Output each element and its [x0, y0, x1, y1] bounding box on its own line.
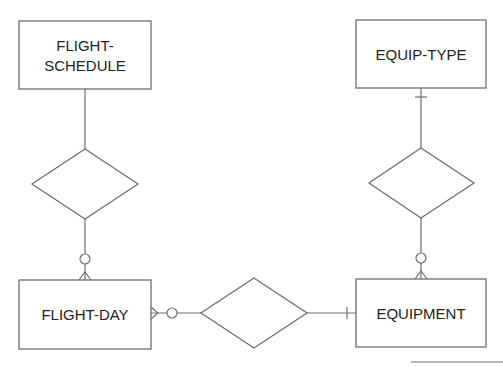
entity-label: EQUIP-TYPE	[376, 46, 467, 63]
optional-circle-icon	[80, 254, 90, 264]
entity-label-line-1: FLIGHT-	[56, 37, 114, 54]
relationship-type-equipment[interactable]	[369, 148, 474, 218]
relationship-day-equipment[interactable]	[201, 278, 307, 348]
er-diagram: FLIGHT- SCHEDULE EQUIP-TYPE FLIGHT-DAY E…	[0, 0, 503, 367]
optional-circle-icon	[416, 253, 426, 263]
entity-equipment[interactable]: EQUIPMENT	[356, 279, 486, 347]
entity-box	[19, 21, 151, 89]
relationship-schedule-day[interactable]	[32, 149, 138, 219]
entity-flight-day[interactable]: FLIGHT-DAY	[19, 280, 151, 349]
entity-label-line-2: SCHEDULE	[44, 57, 126, 74]
entity-equip-type[interactable]: EQUIP-TYPE	[356, 20, 486, 88]
entity-flight-schedule[interactable]: FLIGHT- SCHEDULE	[19, 21, 151, 89]
optional-circle-icon	[167, 308, 177, 318]
entity-label: FLIGHT-DAY	[41, 306, 128, 323]
entity-label: EQUIPMENT	[376, 305, 465, 322]
